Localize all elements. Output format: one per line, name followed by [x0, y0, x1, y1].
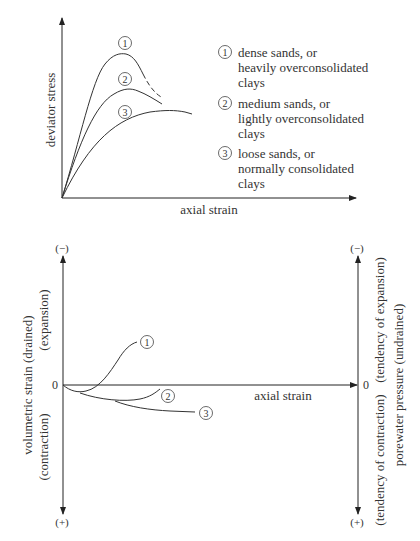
svg-text:clays: clays — [238, 126, 265, 141]
curve-3 — [62, 111, 192, 199]
top-xlabel: axial strain — [180, 202, 238, 217]
vol-curve-3 — [115, 401, 195, 412]
right-zero: 0 — [363, 378, 369, 392]
bottom-curve-label-1: 1 — [141, 336, 154, 349]
vol-curve-1 — [63, 342, 137, 392]
svg-text:lightly overconsolidated: lightly overconsolidated — [238, 111, 365, 126]
svg-text:normally consolidated: normally consolidated — [238, 161, 354, 176]
right-ylabel: porewater pressure (undrained) — [391, 304, 406, 466]
left-lower-note: (contraction) — [36, 413, 51, 480]
svg-text:1: 1 — [223, 47, 228, 58]
left-zero: 0 — [52, 378, 58, 392]
legend-item-3: 3 loose sands, or normally consolidated … — [219, 146, 355, 191]
legend: 1 dense sands, or heavily overconsolidat… — [219, 45, 369, 191]
svg-text:3: 3 — [123, 107, 128, 118]
left-ylabel: volumetric strain (drained) — [20, 315, 35, 454]
svg-text:2: 2 — [223, 98, 228, 109]
top-ylabel: deviator stress — [43, 73, 58, 148]
curve-2 — [62, 89, 162, 198]
bottom-xlabel: axial strain — [254, 388, 312, 403]
svg-text:medium sands, or: medium sands, or — [238, 96, 331, 111]
legend-item-2: 2 medium sands, or lightly overconsolida… — [219, 96, 365, 141]
svg-text:clays: clays — [238, 176, 265, 191]
bottom-curve-label-2: 2 — [162, 390, 175, 403]
svg-text:loose sands, or: loose sands, or — [238, 146, 316, 161]
top-curve-label-1: 1 — [119, 37, 132, 50]
top-curve-label-2: 2 — [119, 73, 132, 86]
top-curve-label-3: 3 — [119, 106, 132, 119]
curve-1-solid — [62, 54, 143, 198]
svg-text:heavily overconsolidated: heavily overconsolidated — [238, 60, 369, 75]
svg-text:clays: clays — [238, 75, 265, 90]
diagram-canvas: deviator stress axial strain 1 2 3 1 den… — [0, 0, 420, 541]
svg-text:1: 1 — [123, 38, 128, 49]
left-bottom-sign: (+) — [55, 516, 69, 529]
left-upper-note: (expansion) — [36, 289, 51, 350]
top-chart: deviator stress axial strain 1 2 3 1 den… — [43, 18, 369, 217]
right-top-sign: (−) — [350, 242, 364, 255]
svg-text:3: 3 — [223, 148, 228, 159]
right-bottom-sign: (+) — [350, 516, 364, 529]
right-upper-note: (tendency of expansion) — [372, 257, 387, 383]
right-lower-note: (tendency of contraction) — [372, 394, 387, 525]
legend-item-1: 1 dense sands, or heavily overconsolidat… — [219, 45, 369, 90]
svg-text:3: 3 — [204, 408, 209, 419]
svg-text:2: 2 — [123, 74, 128, 85]
svg-text:2: 2 — [166, 391, 171, 402]
svg-text:1: 1 — [145, 337, 150, 348]
bottom-chart: (−) (+) (−) (+) 0 0 axial strain volumet… — [20, 242, 406, 529]
svg-text:dense sands, or: dense sands, or — [238, 45, 318, 60]
left-top-sign: (−) — [55, 242, 69, 255]
vol-curve-2 — [80, 389, 160, 400]
bottom-curve-label-3: 3 — [200, 407, 213, 420]
